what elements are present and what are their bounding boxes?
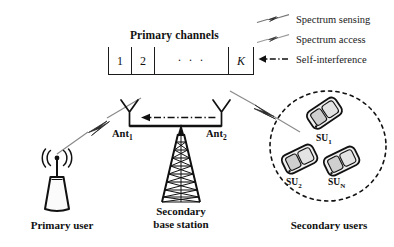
channel-cell-label: K	[237, 55, 245, 67]
antenna-1-shape	[121, 100, 138, 126]
channel-cell-ellipsis: · · ·	[154, 47, 228, 74]
antenna-2-shape	[213, 100, 230, 126]
channel-cell: 2	[131, 47, 154, 74]
legend-item-label: Spectrum access	[296, 33, 366, 45]
su-1-device	[303, 95, 347, 133]
su-n-device	[320, 143, 364, 181]
antenna-1-label: Ant1	[112, 128, 133, 142]
lattice-tower-icon	[152, 124, 210, 206]
su-n-label: SUN	[328, 177, 345, 190]
channel-cell: 1	[108, 47, 131, 74]
figure-canvas: Primary channels 1 2 · · · K	[0, 0, 394, 247]
legend-item-label: Self-interference	[296, 53, 367, 65]
lightning-bolt-icon	[256, 12, 290, 26]
channel-cell: K	[228, 47, 254, 74]
access-point-antenna-icon	[30, 145, 86, 213]
secondary-base-station-caption: Secondary base station	[131, 205, 231, 230]
channel-cell-label: 1	[117, 55, 123, 67]
primary-user-caption: Primary user	[12, 219, 112, 232]
primary-channels-title: Primary channels	[130, 29, 219, 41]
legend-item-spectrum-sensing: Spectrum sensing	[256, 9, 392, 29]
caption-line-1: Secondary	[131, 205, 231, 218]
left-arrow-dashdot-icon	[256, 52, 290, 66]
su-2-label: SU2	[286, 177, 302, 190]
primary-channels-table: 1 2 · · · K	[108, 47, 254, 75]
legend-item-spectrum-access: Spectrum access	[256, 29, 392, 49]
secondary-users-caption: Secondary users	[274, 219, 384, 232]
caption-line-2: base station	[131, 218, 231, 231]
legend: Spectrum sensing Spectrum access Self-in…	[256, 9, 392, 69]
legend-item-self-interference: Self-interference	[256, 49, 392, 69]
channel-cell-label: 2	[140, 55, 146, 67]
ellipsis-label: · · ·	[178, 53, 206, 68]
legend-item-label: Spectrum sensing	[296, 13, 370, 25]
lightning-bolt-icon	[256, 32, 290, 46]
su-2-device	[278, 141, 322, 179]
